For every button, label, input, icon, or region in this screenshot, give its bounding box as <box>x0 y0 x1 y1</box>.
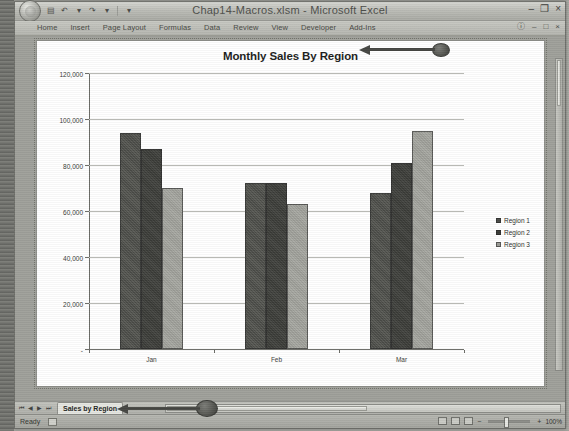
zoom-out-button[interactable]: − <box>477 418 481 425</box>
last-sheet-icon[interactable]: ⏭ <box>45 405 52 411</box>
category-axis-tick <box>464 350 465 353</box>
value-axis-label: 40,000 <box>63 255 83 262</box>
ribbon-tab-home[interactable]: Home <box>31 22 63 35</box>
chart-legend[interactable]: Region 1Region 2Region 3 <box>496 217 530 248</box>
bar-mar-region-3[interactable] <box>412 131 433 350</box>
zoom-percentage[interactable]: 100% <box>545 418 562 425</box>
legend-item-region-3[interactable]: Region 3 <box>496 241 530 248</box>
zoom-slider[interactable] <box>488 420 530 423</box>
minimize-button[interactable]: – <box>529 4 535 14</box>
zoom-in-button[interactable]: + <box>537 418 541 425</box>
category-axis-tick <box>89 350 90 353</box>
ribbon-tab-developer[interactable]: Developer <box>295 22 342 35</box>
bar-feb-region-2[interactable] <box>266 183 287 349</box>
bar-group-feb <box>245 73 308 349</box>
value-axis-label: 20,000 <box>63 301 83 308</box>
value-axis-label: 60,000 <box>63 209 83 216</box>
close-button[interactable]: × <box>555 4 561 14</box>
legend-swatch-icon <box>496 218 501 223</box>
chart-area[interactable]: Monthly Sales By Region -20,00040,00060,… <box>36 40 545 387</box>
scanned-page: ▤ ↶ ▾ ↷ ▾ ▾ Chap14-Macros.xlsm - Microso… <box>0 0 569 431</box>
normal-view-button[interactable] <box>438 417 447 425</box>
legend-swatch-icon <box>496 230 501 235</box>
bar-jan-region-2[interactable] <box>141 149 162 349</box>
scan-edge-artifact <box>0 0 14 431</box>
bar-feb-region-3[interactable] <box>287 204 308 349</box>
ribbon-tab-page-layout[interactable]: Page Layout <box>97 22 152 35</box>
category-label-mar: Mar <box>396 356 407 363</box>
excel-application-window: ▤ ↶ ▾ ↷ ▾ ▾ Chap14-Macros.xlsm - Microso… <box>14 1 566 429</box>
legend-swatch-icon <box>496 242 501 247</box>
bar-mar-region-2[interactable] <box>391 163 412 349</box>
first-sheet-icon[interactable]: ⏮ <box>18 405 25 411</box>
restore-button[interactable]: ❐ <box>540 4 549 14</box>
chart-title[interactable]: Monthly Sales By Region <box>37 50 544 62</box>
bar-feb-region-1[interactable] <box>245 183 266 349</box>
status-bar: Ready − + 100% <box>15 414 565 428</box>
bar-series-layer <box>89 74 464 350</box>
plot-area[interactable]: -20,00040,00060,00080,000100,000120,000 … <box>89 74 464 350</box>
legend-label: Region 3 <box>504 241 530 248</box>
close-workbook-icon[interactable]: × <box>555 23 560 31</box>
bar-mar-region-1[interactable] <box>370 193 391 349</box>
sheet-tab-bar: ⏮◀▶⏭ Sales by Region <box>15 401 565 414</box>
horizontal-scrollbar[interactable] <box>165 404 561 413</box>
status-bar-right: − + 100% <box>438 417 562 425</box>
ribbon-tab-strip: HomeInsertPage LayoutFormulasDataReviewV… <box>15 21 565 36</box>
sheet-navigation-buttons: ⏮◀▶⏭ <box>18 405 52 411</box>
restore-workbook-icon[interactable]: □ <box>543 23 548 31</box>
vertical-scrollbar-thumb[interactable] <box>557 60 561 106</box>
ribbon-right-controls: ⓘ–□× <box>517 23 560 31</box>
value-axis-label: 80,000 <box>63 163 83 170</box>
category-label-feb: Feb <box>271 356 282 363</box>
page-break-preview-button[interactable] <box>464 417 473 425</box>
bar-group-jan <box>120 73 183 349</box>
ribbon-tab-data[interactable]: Data <box>198 22 226 35</box>
value-axis-label: 120,000 <box>60 71 84 78</box>
legend-label: Region 2 <box>504 229 530 236</box>
legend-item-region-1[interactable]: Region 1 <box>496 217 530 224</box>
window-title: Chap14-Macros.xlsm - Microsoft Excel <box>15 4 565 16</box>
minimize-workbook-icon[interactable]: – <box>532 23 536 31</box>
prev-sheet-icon[interactable]: ◀ <box>27 405 34 411</box>
page-layout-view-button[interactable] <box>451 417 460 425</box>
ribbon-tab-insert[interactable]: Insert <box>64 22 95 35</box>
value-axis-label: - <box>81 347 83 354</box>
horizontal-scrollbar-thumb[interactable] <box>167 406 367 411</box>
vertical-scrollbar[interactable] <box>555 58 563 371</box>
title-bar: ▤ ↶ ▾ ↷ ▾ ▾ Chap14-Macros.xlsm - Microso… <box>15 2 565 21</box>
ribbon-tab-view[interactable]: View <box>266 22 295 35</box>
bar-group-mar <box>370 73 433 349</box>
ribbon-tabs: HomeInsertPage LayoutFormulasDataReviewV… <box>15 21 565 36</box>
ribbon-tab-review[interactable]: Review <box>227 22 264 35</box>
help-icon[interactable]: ⓘ <box>517 23 525 31</box>
legend-label: Region 1 <box>504 217 530 224</box>
legend-item-region-2[interactable]: Region 2 <box>496 229 530 236</box>
value-axis-label: 100,000 <box>60 117 84 124</box>
window-controls: – ❐ × <box>529 4 561 14</box>
category-axis-tick <box>339 350 340 353</box>
sheet-tab[interactable]: Sales by Region <box>57 402 123 414</box>
chart-sheet-workspace: Monthly Sales By Region -20,00040,00060,… <box>15 36 565 401</box>
ribbon-tab-formulas[interactable]: Formulas <box>153 22 197 35</box>
status-text: Ready <box>20 418 40 425</box>
bar-jan-region-3[interactable] <box>162 188 183 349</box>
macro-record-icon[interactable] <box>48 418 57 426</box>
category-axis-tick <box>214 350 215 353</box>
bar-jan-region-1[interactable] <box>120 133 141 349</box>
category-label-jan: Jan <box>146 356 156 363</box>
next-sheet-icon[interactable]: ▶ <box>36 405 43 411</box>
ribbon-tab-add-ins[interactable]: Add-Ins <box>343 22 382 35</box>
